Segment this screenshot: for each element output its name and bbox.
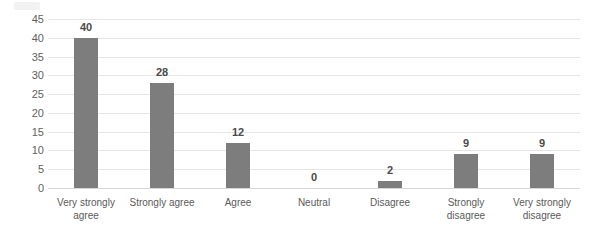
y-tick-label-25: 25 [32,89,44,100]
x-tick-label: Disagree [352,196,428,209]
bar-value-label: 40 [80,22,92,33]
bar[interactable] [530,154,554,188]
bar-value-label: 0 [311,172,317,183]
bar-value-label: 9 [463,138,469,149]
bar-value-label: 28 [156,67,168,78]
bar[interactable] [378,181,402,189]
gridline-0 [48,188,580,189]
bar[interactable] [74,38,98,188]
y-tick-label-40: 40 [32,32,44,43]
bars-group: 4028120299 [48,19,580,188]
x-tick-label: Strongly agree [124,196,200,209]
y-tick-label-20: 20 [32,107,44,118]
bar-slot: 12 [200,19,276,188]
x-tick-label: Agree [200,196,276,209]
bar-slot: 9 [504,19,580,188]
bar-slot: 9 [428,19,504,188]
x-tick-label: Neutral [276,196,352,209]
y-axis: 051015202530354045 [0,19,44,188]
bar[interactable] [150,83,174,188]
bar-slot: 0 [276,19,352,188]
y-tick-label-10: 10 [32,145,44,156]
bar[interactable] [454,154,478,188]
bar-slot: 2 [352,19,428,188]
y-tick-label-45: 45 [32,14,44,25]
bar-slot: 40 [48,19,124,188]
y-tick-label-35: 35 [32,51,44,62]
y-tick-label-0: 0 [38,183,44,194]
bar-chart: 051015202530354045 4028120299 Very stron… [0,0,594,248]
y-tick-label-15: 15 [32,126,44,137]
bar-value-label: 12 [232,127,244,138]
x-tick-label: Very strongly agree [48,196,124,222]
bar[interactable] [226,143,250,188]
x-tick-label: Strongly disagree [428,196,504,222]
y-tick-label-30: 30 [32,70,44,81]
bar-value-label: 9 [539,138,545,149]
x-tick-label: Very strongly disagree [504,196,580,222]
y-tick-label-5: 5 [38,164,44,175]
bar-value-label: 2 [387,165,393,176]
bar-slot: 28 [124,19,200,188]
x-axis: Very strongly agreeStrongly agreeAgreeNe… [48,196,580,244]
scan-artifact [14,2,40,10]
